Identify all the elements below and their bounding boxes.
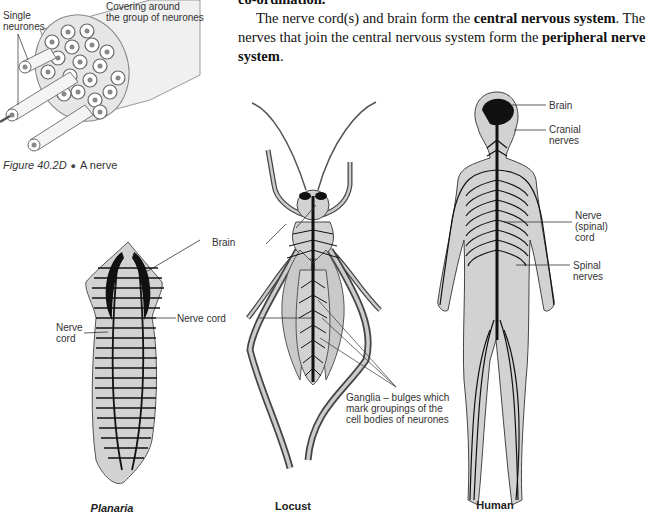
- para2-pre: nerves that join the central nervous sys…: [238, 29, 542, 45]
- caption-text: A nerve: [80, 159, 117, 171]
- planaria-illustration: [84, 240, 200, 484]
- caption-bullet-icon: ●: [71, 161, 76, 171]
- label-neurones: neurones: [3, 21, 45, 32]
- paragraph-line-1: The nerve cord(s) and brain form the cen…: [256, 9, 645, 28]
- label-covering-2: the group of neurones: [106, 12, 204, 23]
- locust-label-brain: Brain: [212, 237, 235, 248]
- label-covering-1: Covering around: [106, 1, 180, 12]
- para1-post: . The: [616, 10, 646, 26]
- planaria-label-nerve: Nerve: [56, 322, 83, 333]
- planaria-name: Planaria: [62, 502, 162, 514]
- locust-label-nerve-cord: Nerve cord: [177, 313, 226, 324]
- term-system: system: [238, 48, 280, 64]
- figure-caption: Figure 40.2D●A nerve: [3, 159, 117, 171]
- human-illustration: [438, 92, 572, 505]
- human-label-spinal-2: nerves: [573, 271, 603, 282]
- human-label-brain: Brain: [549, 100, 572, 111]
- human-label-nerve-2: (spinal): [575, 221, 608, 232]
- label-single: Single: [3, 10, 31, 21]
- para1-pre: The nerve cord(s) and brain form the: [256, 10, 474, 26]
- paragraph-line-3: system.: [238, 47, 284, 66]
- term-central-nervous-system: central nervous system: [474, 10, 616, 26]
- locust-label-ganglia-3: cell bodies of neurones: [346, 414, 449, 425]
- locust-label-ganglia-2: mark groupings of the: [346, 403, 443, 414]
- line-top: co-ordination.: [238, 0, 325, 9]
- locust-name: Locust: [243, 500, 343, 512]
- human-label-cranial-1: Cranial: [549, 124, 581, 135]
- human-label-cranial-2: nerves: [549, 135, 579, 146]
- para3-post: .: [280, 48, 284, 64]
- human-label-nerve-1: Nerve: [575, 210, 602, 221]
- paragraph-line-2: nerves that join the central nervous sys…: [238, 28, 646, 47]
- caption-figure-number: Figure 40.2D: [3, 159, 67, 171]
- human-label-spinal-1: Spinal: [573, 260, 601, 271]
- human-name: Human: [445, 499, 545, 511]
- human-label-nerve-3: cord: [575, 232, 594, 243]
- planaria-label-cord: cord: [56, 333, 75, 344]
- locust-label-ganglia-1: Ganglia – bulges which: [346, 392, 449, 403]
- term-peripheral-nerve: peripheral nerve: [542, 29, 646, 45]
